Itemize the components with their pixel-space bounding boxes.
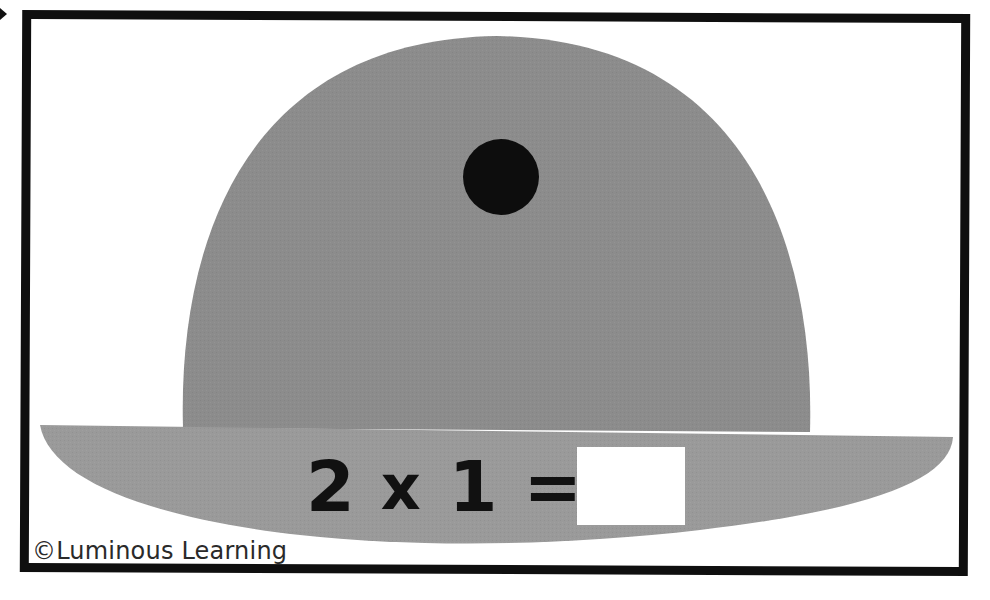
flash-card-page: 2 x 1 = ©Luminous Learning (0, 0, 990, 600)
multiply-operator: x (381, 451, 423, 524)
equation: 2 x 1 = (306, 442, 602, 532)
answer-box[interactable] (577, 447, 685, 525)
operand-b: 1 (449, 446, 500, 528)
equals-sign: = (523, 446, 584, 528)
operand-a: 2 (306, 446, 357, 528)
copyright-text: ©Luminous Learning (32, 537, 287, 565)
